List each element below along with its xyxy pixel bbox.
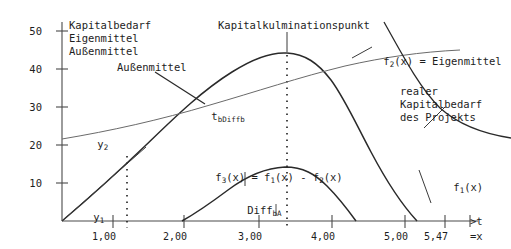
f3-mid: (x) = f xyxy=(226,171,270,183)
annotation-realer-line3: des Projekts xyxy=(400,111,476,124)
annotation-y2: y2 xyxy=(72,125,108,165)
x-axis-variable-label: =x xyxy=(470,230,483,243)
y-tick-label-10: 10 xyxy=(20,177,42,190)
annotation-t-bdiffb: tbDiffb xyxy=(186,97,245,137)
f3-mid2: (x) - f xyxy=(275,171,319,183)
f2-subscript: 2 xyxy=(390,60,395,69)
t-symbol: t xyxy=(211,110,217,122)
f2-tail: (x) = Eigenmittel xyxy=(394,55,501,67)
diff-subscript: bA xyxy=(273,209,282,218)
y1-symbol: y xyxy=(93,211,99,223)
y-axis-title-line1: Kapitalbedarf xyxy=(69,19,151,32)
y1-subscript: 1 xyxy=(100,216,105,225)
x-tick-label-2: 2,00 xyxy=(163,231,187,244)
annotation-f1: f1(x) xyxy=(428,168,483,208)
f1-tail: (x) xyxy=(464,181,483,193)
f3-tail: (x) xyxy=(324,171,343,183)
x-tick-label-4: 4,00 xyxy=(311,231,335,244)
y-tick-label-30: 30 xyxy=(20,101,42,114)
f3-subscript: 3 xyxy=(222,176,227,185)
annotation-kapitalkulminationspunkt: Kapitalkulminationspunkt xyxy=(218,19,370,32)
f2-function-name: f xyxy=(383,55,389,67)
y2-subscript: 2 xyxy=(104,143,109,152)
x-tick-label-547: 5,47 xyxy=(424,231,448,244)
y-axis-title-line2: Eigenmittel xyxy=(69,32,139,45)
y-tick-label-40: 40 xyxy=(20,63,42,76)
x-axis-arrow-label: >t xyxy=(470,215,483,228)
x-tick-label-5: 5,00 xyxy=(384,231,408,244)
y-axis-title-line3: Außenmittel xyxy=(69,45,139,58)
annotation-y1: y1 xyxy=(68,198,104,238)
annotation-realer-line2: Kapitalbedarf xyxy=(400,98,482,111)
x-tick-label-3: 3,00 xyxy=(238,231,262,244)
annotation-realer-line1: realer xyxy=(400,85,438,98)
f3-subscript-2: 2 xyxy=(319,176,324,185)
f1-subscript: 1 xyxy=(460,186,465,195)
y-tick-label-50: 50 xyxy=(20,25,42,38)
f3-function-name: f xyxy=(215,171,221,183)
f3-subscript-1: 1 xyxy=(270,176,275,185)
annotation-f2-eigenmittel: f2(x) = Eigenmittel xyxy=(358,42,502,82)
y2-symbol: y xyxy=(97,138,103,150)
t-subscript: bDiffb xyxy=(218,115,245,124)
annotation-aussenmittel: Außenmittel xyxy=(117,61,187,74)
y-tick-label-20: 20 xyxy=(20,139,42,152)
annotation-diff-ba: DiffbA xyxy=(222,191,282,231)
diff-label: Diff xyxy=(247,204,272,216)
chart-canvas: 50 40 30 20 10 1,00 2,00 3,00 4,00 5,00 … xyxy=(0,0,511,249)
f1-function-name: f xyxy=(453,181,459,193)
